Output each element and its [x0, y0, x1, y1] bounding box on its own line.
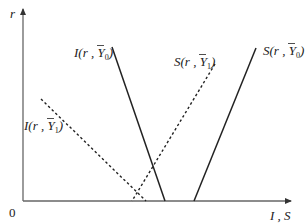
svg-text:I(r , Y1): I(r , Y1): [23, 118, 63, 135]
label-investment-y0: I(r , Y0): [73, 45, 113, 62]
svg-text:S(r , Y1): S(r , Y1): [174, 54, 215, 71]
label-investment-y1: I(r , Y1): [23, 118, 63, 135]
y-axis-label: r: [10, 6, 16, 21]
svg-text:I(r , Y0): I(r , Y0): [73, 45, 113, 62]
is-diagram: r 0 I , S I(r , Y0) S(r , Y0) S(r , Y1) …: [0, 0, 308, 224]
svg-text:S(r , Y0): S(r , Y0): [263, 43, 304, 60]
saving-curve-y0: [194, 48, 256, 201]
label-saving-y0: S(r , Y0): [263, 43, 304, 60]
investment-curve-y0: [112, 47, 165, 201]
label-saving-y1: S(r , Y1): [174, 54, 215, 71]
investment-curve-y1: [41, 99, 146, 201]
x-axis-label: I , S: [269, 208, 291, 223]
origin-label: 0: [9, 205, 16, 220]
